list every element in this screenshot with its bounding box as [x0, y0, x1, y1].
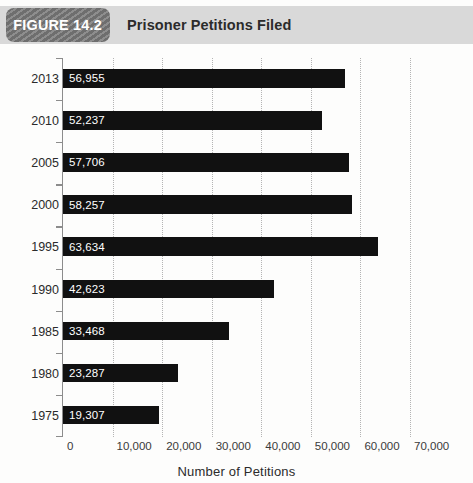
figure-number-badge: FIGURE 14.2 [6, 8, 110, 42]
bar-value-label: 58,257 [69, 199, 105, 211]
x-tick-label-60000: 60,000 [364, 440, 399, 452]
bar-value-label: 56,955 [69, 72, 105, 84]
category-label-2005: 2005 [0, 156, 59, 170]
category-label-1985: 1985 [0, 325, 59, 339]
chart-plot-wrapper: 56,95552,23757,70658,25763,63442,62333,4… [0, 44, 473, 483]
category-label-1980: 1980 [0, 367, 59, 381]
x-tick-label-10000: 10,000 [117, 440, 152, 452]
bar-value-label: 23,287 [69, 367, 105, 379]
x-tick-label-50000: 50,000 [315, 440, 350, 452]
bar-1975: 19,307 [63, 406, 159, 425]
bar-value-label: 57,706 [69, 156, 105, 168]
figure-number-label: FIGURE 14.2 [14, 16, 103, 34]
bar-2005: 57,706 [63, 153, 349, 172]
bar-1985: 33,468 [63, 322, 229, 341]
bar-1990: 42,623 [63, 280, 274, 299]
x-axis-title: Number of Petitions [0, 464, 473, 479]
category-label-2010: 2010 [0, 114, 59, 128]
y-axis-cap-bottom [56, 436, 63, 437]
category-label-1975: 1975 [0, 409, 59, 423]
bar-value-label: 52,237 [69, 114, 105, 126]
bar-2010: 52,237 [63, 111, 322, 130]
bar-1980: 23,287 [63, 364, 178, 383]
bar-value-label: 63,634 [69, 241, 105, 253]
figure-container: FIGURE 14.2 Prisoner Petitions Filed 56,… [0, 0, 473, 483]
bar-value-label: 33,468 [69, 325, 105, 337]
bar-2000: 58,257 [63, 195, 352, 214]
category-label-2000: 2000 [0, 198, 59, 212]
category-label-1990: 1990 [0, 283, 59, 297]
x-tick-label-20000: 20,000 [166, 440, 201, 452]
category-label-2013: 2013 [0, 72, 59, 86]
bar-value-label: 42,623 [69, 283, 105, 295]
category-label-1995: 1995 [0, 240, 59, 254]
bar-value-label: 19,307 [69, 409, 105, 421]
x-tick-label-70000: 70,000 [414, 440, 449, 452]
gridline-70000 [410, 58, 411, 437]
x-tick-label-0: 0 [67, 440, 73, 452]
figure-title: Prisoner Petitions Filed [127, 17, 291, 33]
x-tick-label-40000: 40,000 [265, 440, 300, 452]
bar-2013: 56,955 [63, 69, 345, 88]
x-tick-label-30000: 30,000 [216, 440, 251, 452]
bar-1995: 63,634 [63, 237, 378, 256]
